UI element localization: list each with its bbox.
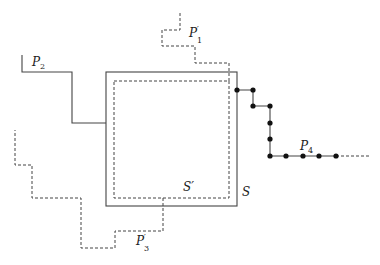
label-P2: P 2	[31, 55, 45, 71]
svg-text:4: 4	[308, 146, 313, 155]
node	[316, 153, 321, 158]
node	[250, 103, 255, 108]
node	[267, 136, 272, 141]
svg-text:2: 2	[40, 62, 45, 71]
node	[300, 153, 305, 158]
label-P1-prime: P ′ 1	[188, 24, 202, 45]
node	[267, 120, 272, 125]
square-S	[106, 72, 237, 206]
node	[283, 153, 288, 158]
path-P3-prime	[15, 130, 163, 248]
label-S-prime: S′	[183, 180, 194, 194]
path-P4	[237, 90, 336, 156]
svg-text:′: ′	[144, 232, 146, 241]
node	[250, 87, 255, 92]
svg-text:3: 3	[144, 244, 149, 253]
label-P4: P 4	[299, 139, 313, 155]
node	[267, 153, 272, 158]
node	[333, 153, 338, 158]
label-P3-prime: P ′ 3	[135, 232, 149, 253]
node	[267, 103, 272, 108]
figure: P 2 P ′ 1 P 4 P ′ 3 S′ S	[0, 0, 380, 265]
square-S-prime	[114, 81, 229, 198]
label-S: S	[242, 185, 250, 199]
path-P1-prime	[162, 13, 229, 81]
svg-text:′: ′	[197, 24, 199, 33]
node	[234, 87, 239, 92]
P4-nodes	[234, 87, 338, 158]
svg-text:1: 1	[197, 36, 202, 45]
